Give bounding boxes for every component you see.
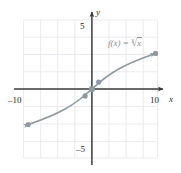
cube-root-radical: 3√x [129, 38, 142, 48]
function-equation-lhs: f(x) = [108, 38, 129, 48]
x-axis-tick-label-negative-ten: –10 [8, 96, 22, 105]
function-equation-label: f(x) =3√x [108, 38, 142, 48]
point-marker [96, 80, 101, 85]
point-marker [89, 86, 95, 92]
y-axis-tick-label-negative-five: –5 [76, 145, 85, 154]
graph-figure: –10 10 5 –5 x y f(x) =3√x [0, 0, 181, 173]
y-axis-tick-label-positive-five: 5 [80, 22, 85, 31]
radical-index: 3 [131, 38, 134, 44]
graph-canvas [0, 0, 181, 173]
radicand: x [137, 37, 142, 48]
x-axis-tick-label-positive-ten: 10 [150, 96, 159, 105]
point-marker [26, 122, 31, 127]
y-axis-name-label: y [96, 8, 100, 17]
axes [14, 12, 163, 165]
point-marker [83, 93, 88, 98]
x-axis-name-label: x [169, 95, 173, 104]
point-marker [153, 51, 158, 56]
